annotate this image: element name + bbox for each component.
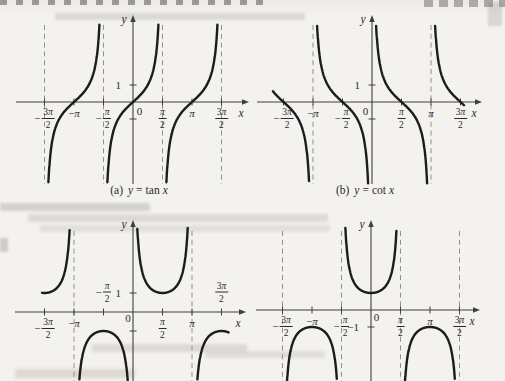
cot-graph: [257, 15, 482, 184]
figure-plot: [0, 0, 505, 381]
y-axis-arrow: [368, 220, 373, 227]
caption-arg: x: [163, 184, 168, 196]
caption-arg: x: [389, 184, 394, 196]
y-axis-arrow: [130, 15, 135, 22]
x-axis-arrow: [242, 99, 249, 104]
caption-cot: (b) y = cot x: [336, 184, 394, 196]
caption-function: cot: [372, 184, 386, 196]
caption-equals: =: [136, 184, 143, 196]
csc-graph: [15, 220, 246, 381]
caption-lhs: y: [354, 184, 359, 196]
textbook-figure-page: −3π2−π−π20π2π3π21xy−3π2−π−π20π2π3π21xy−3…: [0, 0, 505, 381]
sec-graph: [256, 220, 480, 381]
x-axis-arrow: [475, 99, 482, 104]
caption-tan: (a) y = tan x: [110, 184, 168, 196]
caption-function: tan: [146, 184, 160, 196]
y-axis-arrow: [369, 15, 374, 22]
caption-index: (a): [110, 184, 123, 196]
x-axis-arrow: [239, 309, 246, 314]
x-axis-arrow: [473, 307, 480, 312]
csc-curve: [42, 228, 229, 380]
cot-curve: [273, 26, 464, 184]
tan-graph: [16, 15, 249, 184]
y-axis-arrow: [130, 220, 135, 227]
caption-index: (b): [336, 184, 349, 196]
caption-lhs: y: [128, 184, 133, 196]
caption-equals: =: [362, 184, 369, 196]
